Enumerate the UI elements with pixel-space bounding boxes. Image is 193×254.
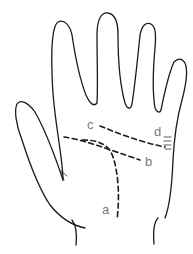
- hand-outline-graphic: [0, 0, 193, 254]
- thumb-outline: [16, 102, 85, 228]
- label-b: b: [145, 155, 152, 168]
- line-a: [82, 140, 118, 220]
- wrist-right: [154, 218, 158, 244]
- line-b: [64, 137, 140, 160]
- palm-diagram: c d b a: [0, 0, 193, 254]
- label-c: c: [87, 118, 94, 131]
- label-a: a: [102, 203, 109, 216]
- hand-outline: [52, 13, 187, 218]
- label-d: d: [154, 125, 161, 138]
